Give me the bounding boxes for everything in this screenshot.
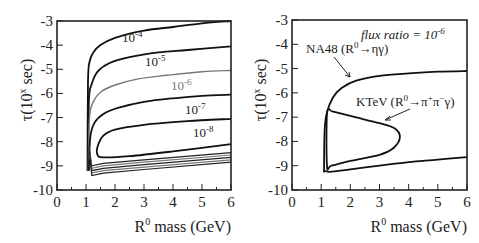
left-y-axis-label: τ(10x sec) bbox=[17, 59, 36, 122]
right-y-axis-label: τ(10x sec) bbox=[251, 59, 270, 122]
y-tick-label: -9 bbox=[276, 158, 289, 174]
x-tick-label: 4 bbox=[169, 194, 177, 210]
ktev-label: KTeV (R0→π+π−γ) bbox=[356, 93, 455, 109]
y-tick-label: -10 bbox=[33, 182, 53, 198]
y-tick-label: -6 bbox=[276, 85, 289, 101]
y-tick-label: -5 bbox=[276, 61, 289, 77]
x-tick-label: 3 bbox=[376, 194, 384, 210]
x-tick-label: 4 bbox=[405, 194, 413, 210]
x-tick-label: 3 bbox=[140, 194, 148, 210]
y-tick-label: -4 bbox=[41, 37, 54, 53]
flux-ratio-annotation: flux ratio = 10-6 bbox=[361, 26, 445, 42]
left-x-axis-label: R0 mass (GeV) bbox=[134, 216, 231, 236]
y-tick-label: -3 bbox=[276, 12, 289, 28]
x-tick-label: 1 bbox=[82, 194, 90, 210]
curve-10-5 bbox=[88, 46, 231, 170]
chart-canvas: 0123456-3-4-5-6-7-8-9-10 10-4 10-5 10-6 … bbox=[0, 0, 479, 243]
x-tick-label: 5 bbox=[198, 194, 206, 210]
y-tick-label: -7 bbox=[41, 110, 54, 126]
x-tick-label: 6 bbox=[463, 194, 471, 210]
contour-label-1e-6: 10-6 bbox=[171, 77, 192, 93]
x-tick-label: 6 bbox=[227, 194, 235, 210]
y-tick-label: -9 bbox=[41, 158, 54, 174]
contour-label-1e-4: 10-4 bbox=[122, 29, 143, 45]
contour-label-1e-7: 10-7 bbox=[185, 101, 206, 117]
x-tick-label: 2 bbox=[347, 194, 355, 210]
y-tick-label: -8 bbox=[276, 133, 289, 149]
x-tick-label: 0 bbox=[53, 194, 61, 210]
x-tick-label: 2 bbox=[111, 194, 119, 210]
y-tick-label: -5 bbox=[41, 61, 54, 77]
x-tick-label: 0 bbox=[288, 194, 296, 210]
ktev-arrow bbox=[385, 109, 410, 120]
y-tick-label: -4 bbox=[276, 36, 289, 52]
na48-arrow bbox=[334, 57, 350, 77]
na48-label: NA48 (R0→ηγ) bbox=[306, 40, 388, 56]
right-x-axis-label: R0 mass (GeV) bbox=[370, 216, 467, 236]
y-tick-label: -10 bbox=[268, 182, 288, 198]
y-tick-label: -7 bbox=[276, 109, 289, 125]
y-tick-label: -6 bbox=[41, 85, 54, 101]
right-contour-curves bbox=[324, 71, 467, 172]
x-tick-label: 1 bbox=[317, 194, 325, 210]
contour-label-1e-5: 10-5 bbox=[145, 53, 166, 69]
contour-label-1e-8: 10-8 bbox=[193, 124, 214, 140]
y-tick-label: -3 bbox=[41, 13, 54, 29]
curve-na48-r0- bbox=[324, 71, 467, 172]
contour-lower-branch bbox=[89, 147, 231, 174]
x-tick-label: 5 bbox=[434, 194, 442, 210]
right-panel: 0123456-3-4-5-6-7-8-9-10 flux ratio = 10… bbox=[251, 12, 471, 236]
left-contour-curves bbox=[88, 21, 232, 176]
left-panel: 0123456-3-4-5-6-7-8-9-10 10-4 10-5 10-6 … bbox=[17, 13, 235, 236]
y-tick-label: -8 bbox=[41, 134, 54, 150]
